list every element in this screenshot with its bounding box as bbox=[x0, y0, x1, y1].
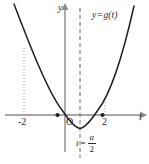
graph-canvas bbox=[0, 0, 149, 164]
t-axis-label: t bbox=[139, 112, 142, 122]
parabola-figure: y t O -2 2 y=g(t) t = a 2 bbox=[0, 0, 149, 164]
tick-label-negative-two: -2 bbox=[18, 117, 26, 127]
vertex-label-variable: t bbox=[76, 139, 79, 148]
root-left-point bbox=[55, 113, 59, 117]
fraction-numerator: a bbox=[88, 133, 97, 143]
vertex-label-fraction: a 2 bbox=[88, 133, 97, 154]
parabola-curve bbox=[14, 4, 134, 129]
vertex-label-equals: = bbox=[81, 139, 86, 148]
fraction-denominator: 2 bbox=[88, 144, 97, 154]
tick-label-two: 2 bbox=[102, 117, 107, 127]
origin-label: O bbox=[66, 117, 73, 127]
axis-of-symmetry-label: t = a 2 bbox=[76, 133, 96, 154]
y-axis-arrow-icon bbox=[62, 3, 69, 10]
curve-equation-label: y=g(t) bbox=[92, 11, 117, 21]
curve-label-equals: = bbox=[96, 10, 103, 20]
curve-label-function: g(t) bbox=[104, 10, 118, 20]
y-axis-label: y bbox=[58, 3, 62, 13]
